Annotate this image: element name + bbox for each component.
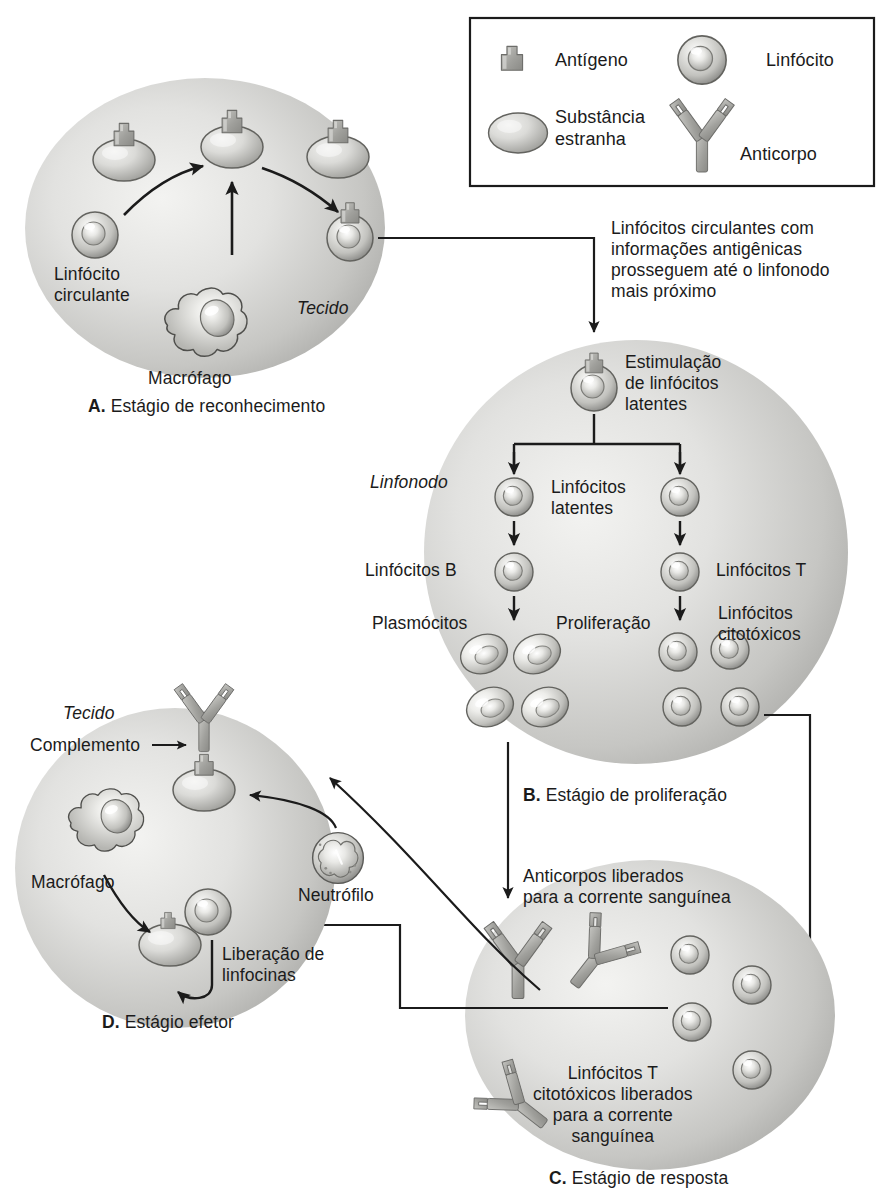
caption-a-letter: A. xyxy=(88,396,106,416)
caption-b-letter: B. xyxy=(523,785,541,805)
legend-label-anticorpo: Anticorpo xyxy=(740,143,817,165)
caption-d-letter: D. xyxy=(102,1012,120,1032)
label-linfocitos-t-citotoxicos-liberados: Linfócitos T citotóxicos liberados para … xyxy=(533,1063,693,1147)
lymphocyte-icon xyxy=(678,36,726,84)
caption-panel-b: B. Estágio de proliferação xyxy=(523,785,727,806)
cytotoxic-lymphocyte-c-1 xyxy=(671,936,709,974)
label-neutrofilo: Neutrófilo xyxy=(298,885,374,906)
caption-panel-c: C. Estágio de resposta xyxy=(549,1168,728,1189)
caption-c-letter: C. xyxy=(549,1168,567,1188)
b-lymphocyte xyxy=(495,553,533,591)
connector-a-to-b xyxy=(378,238,594,332)
dormant-lymphocyte-left xyxy=(495,478,533,516)
label-linfocitos-latentes: Linfócitos latentes xyxy=(551,477,626,519)
label-linfocitos-t: Linfócitos T xyxy=(716,560,806,581)
caption-panel-a: A. Estágio de reconhecimento xyxy=(88,396,325,417)
label-estimulacao-linfocitos-latentes: Estimulação de linfócitos latentes xyxy=(625,352,721,415)
caption-d-text: Estágio efetor xyxy=(120,1012,234,1032)
legend-label-substancia-estranha: Substância estranha xyxy=(555,106,645,150)
label-linfonodo: Linfonodo xyxy=(370,472,448,493)
caption-b-text: Estágio de proliferação xyxy=(541,785,727,805)
effector-lymphocyte-d xyxy=(185,889,231,935)
panel-a-recognition xyxy=(25,78,385,378)
label-linfocitos-citotoxicos: Linfócitos citotóxicos xyxy=(718,603,801,645)
neutrophil-cell xyxy=(313,833,364,884)
label-linfocito-circulante: Linfócito circulante xyxy=(54,264,130,306)
foreign-substance-icon xyxy=(489,113,548,153)
cytotoxic-lymphocyte-c-3 xyxy=(673,1003,711,1041)
caption-c-text: Estágio de resposta xyxy=(567,1168,729,1188)
label-macrofago-d: Macrófago xyxy=(31,872,115,893)
label-plasmocitos: Plasmócitos xyxy=(372,613,467,634)
label-tecido-d: Tecido xyxy=(63,703,115,724)
legend-label-linfocito: Linfócito xyxy=(766,49,834,71)
connector-text-a-to-b: Linfócitos circulantes com informações a… xyxy=(611,218,830,302)
t-lymphocyte xyxy=(661,553,699,591)
label-tecido-a: Tecido xyxy=(297,298,349,319)
cytotoxic-lymphocyte-c-4 xyxy=(733,1051,771,1089)
circulating-lymphocyte-cell xyxy=(72,212,118,258)
caption-panel-d: D. Estágio efetor xyxy=(102,1012,234,1033)
label-proliferacao: Proliferação xyxy=(556,613,651,634)
label-linfocitos-b: Linfócitos B xyxy=(365,560,457,581)
label-liberacao-linfocinas: Liberação de linfocinas xyxy=(222,944,324,986)
label-anticorpos-liberados: Anticorpos liberados para a corrente san… xyxy=(523,866,731,908)
label-complemento: Complemento xyxy=(30,735,140,756)
legend-label-antigeno: Antígeno xyxy=(555,49,628,71)
immune-response-figure: Antígeno Linfócito Substância estranha A… xyxy=(0,0,891,1203)
caption-a-text: Estágio de reconhecimento xyxy=(106,396,326,416)
cytotoxic-lymphocyte-c-2 xyxy=(733,966,771,1004)
label-macrofago-a: Macrófago xyxy=(148,368,232,389)
dormant-lymphocyte-right xyxy=(661,478,699,516)
